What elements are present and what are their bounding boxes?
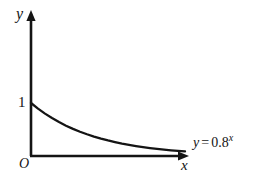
- y-axis-tick-label-1: 1: [18, 95, 26, 110]
- y-axis-label: y: [16, 6, 23, 22]
- plot-canvas: [0, 0, 255, 186]
- equation-exponent: x: [229, 132, 233, 143]
- origin-label: O: [19, 157, 29, 171]
- exponential-decay-figure: y x O 1 y=0.8x: [0, 0, 255, 186]
- equation-operator: =: [199, 135, 211, 150]
- x-axis-label: x: [181, 158, 188, 173]
- y-axis-arrowhead: [26, 10, 35, 21]
- equation-base: 0.8: [211, 135, 229, 150]
- exponential-decay-curve: [31, 103, 185, 151]
- curve-equation-label: y=0.8x: [193, 136, 233, 150]
